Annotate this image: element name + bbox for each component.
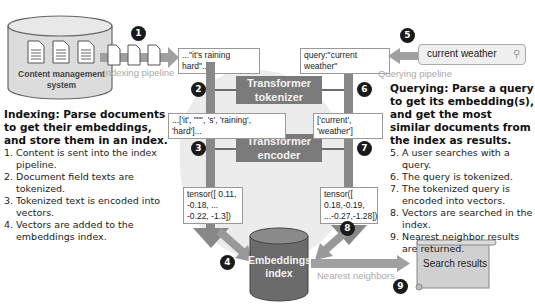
step-badge-8: 8 — [340, 221, 355, 236]
tokenizer-connector-left — [215, 89, 236, 91]
query-tensor-box: tensor([ 0.18,-0.19, ...-0.27,-1.28]) — [320, 187, 378, 224]
step-badge-3: 3 — [191, 141, 206, 156]
step-badge-5: 5 — [400, 28, 415, 43]
indexing-step-3: 3. Tokenized text is encoded into vector… — [4, 195, 174, 219]
encoder-connector-right — [322, 148, 344, 150]
document-tokens-box: ...['it', '""', 's', 'raining', 'hard'].… — [168, 113, 286, 139]
querying-description: Querying: Parse a query to get its embed… — [390, 82, 535, 255]
querying-step-5: 5. A user searches with a query. — [390, 147, 535, 171]
indexing-description: Indexing: Parse documents to get their e… — [4, 108, 174, 243]
encoder-line2: encoder — [258, 148, 301, 162]
query-text-box: query:"current weather" — [300, 48, 390, 74]
index-label: Embeddings index — [248, 254, 310, 280]
step-badge-1: 1 — [131, 26, 146, 41]
tokenizer-line1: Transformer — [247, 76, 311, 90]
index-label-line2: index — [248, 267, 310, 280]
step-badge-2: 2 — [191, 82, 206, 97]
search-results-label: Search results — [420, 258, 490, 269]
index-label-line1: Embeddings — [248, 254, 310, 267]
step-badge-9: 9 — [393, 279, 408, 294]
step-badge-4: 4 — [220, 255, 235, 270]
encoder-connector-left — [215, 148, 236, 150]
indexing-step-1: 1. Content is sent into the index pipeli… — [4, 147, 174, 171]
search-icon[interactable]: ⚲ — [513, 48, 520, 59]
indexing-step-2: 2. Document field texts are tokenized. — [4, 171, 174, 195]
tokenizer-line2: tokenizer — [255, 90, 303, 104]
querying-step-7: 7. The tokenized query is encoded into v… — [390, 183, 535, 207]
query-tokens-box: ['current', 'weather'] — [313, 113, 383, 139]
transformer-tokenizer: Transformer tokenizer — [236, 76, 322, 104]
step-badge-6: 6 — [357, 82, 372, 97]
search-input[interactable]: current weather ⚲ — [418, 44, 526, 65]
querying-steps: 5. A user searches with a query. 6. The … — [390, 147, 535, 255]
document-tensor-box: tensor([ 0.11, -0.18, ... -0.22, -1.3]) — [183, 187, 243, 224]
querying-heading: Querying: Parse a query to get its embed… — [390, 82, 535, 147]
nearest-neighbors-label: Nearest neighbors — [317, 270, 395, 281]
querying-step-8: 8. Vectors are searched in the index. — [390, 207, 535, 231]
indexing-step-4: 4. Vectors are added to the embeddings i… — [4, 219, 174, 243]
querying-step-6: 6. The query is tokenized. — [390, 171, 535, 183]
search-input-value: current weather — [427, 48, 496, 59]
query-arrow — [388, 47, 418, 65]
querying-pipeline-label: Querying pipeline — [378, 68, 452, 79]
tokenizer-connector-right — [322, 89, 344, 91]
indexing-heading: Indexing: Parse documents to get their e… — [4, 108, 174, 147]
indexing-pipeline-label: Indexing pipeline — [103, 67, 174, 78]
indexing-steps: 1. Content is sent into the index pipeli… — [4, 147, 174, 243]
cms-label: Content management system — [14, 69, 109, 91]
document-text-box: ..."it's raining hard"... — [178, 48, 260, 74]
step-badge-7: 7 — [357, 141, 372, 156]
querying-step-9: 9. Nearest neighbor results are returned… — [390, 231, 535, 255]
